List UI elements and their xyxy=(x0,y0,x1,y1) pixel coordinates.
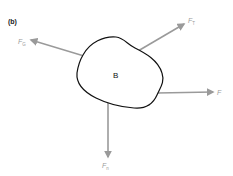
force-n-label: Fn xyxy=(102,162,109,171)
force-t-arrow xyxy=(138,24,184,51)
force-applied-label: F xyxy=(217,89,222,96)
force-g-arrow xyxy=(31,40,84,56)
force-g-label: FG xyxy=(18,38,26,47)
body-label: B xyxy=(113,71,118,80)
force-t-label: FT xyxy=(188,17,195,26)
panel-label: (b) xyxy=(8,18,17,26)
force-applied-arrow xyxy=(157,92,213,93)
body-b-outline xyxy=(77,37,163,108)
free-body-diagram: (b) B FG FT F Fn xyxy=(0,0,233,176)
